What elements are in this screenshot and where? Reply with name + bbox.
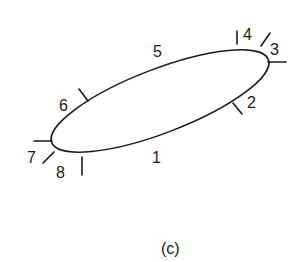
- ellipse-diagram: 5 4 3 2 6 7 8 1 (c): [0, 0, 306, 262]
- tick-3a: [261, 33, 270, 46]
- tick-7b: [43, 152, 54, 163]
- label-6: 6: [59, 97, 68, 114]
- tick-6: [79, 89, 88, 101]
- label-8: 8: [56, 164, 65, 181]
- label-4: 4: [243, 26, 252, 43]
- label-5: 5: [153, 43, 162, 60]
- tick-2: [233, 103, 242, 114]
- label-7: 7: [27, 149, 36, 166]
- label-2: 2: [247, 94, 256, 111]
- figure-caption: (c): [161, 240, 180, 257]
- label-1: 1: [152, 149, 161, 166]
- label-3: 3: [270, 41, 279, 58]
